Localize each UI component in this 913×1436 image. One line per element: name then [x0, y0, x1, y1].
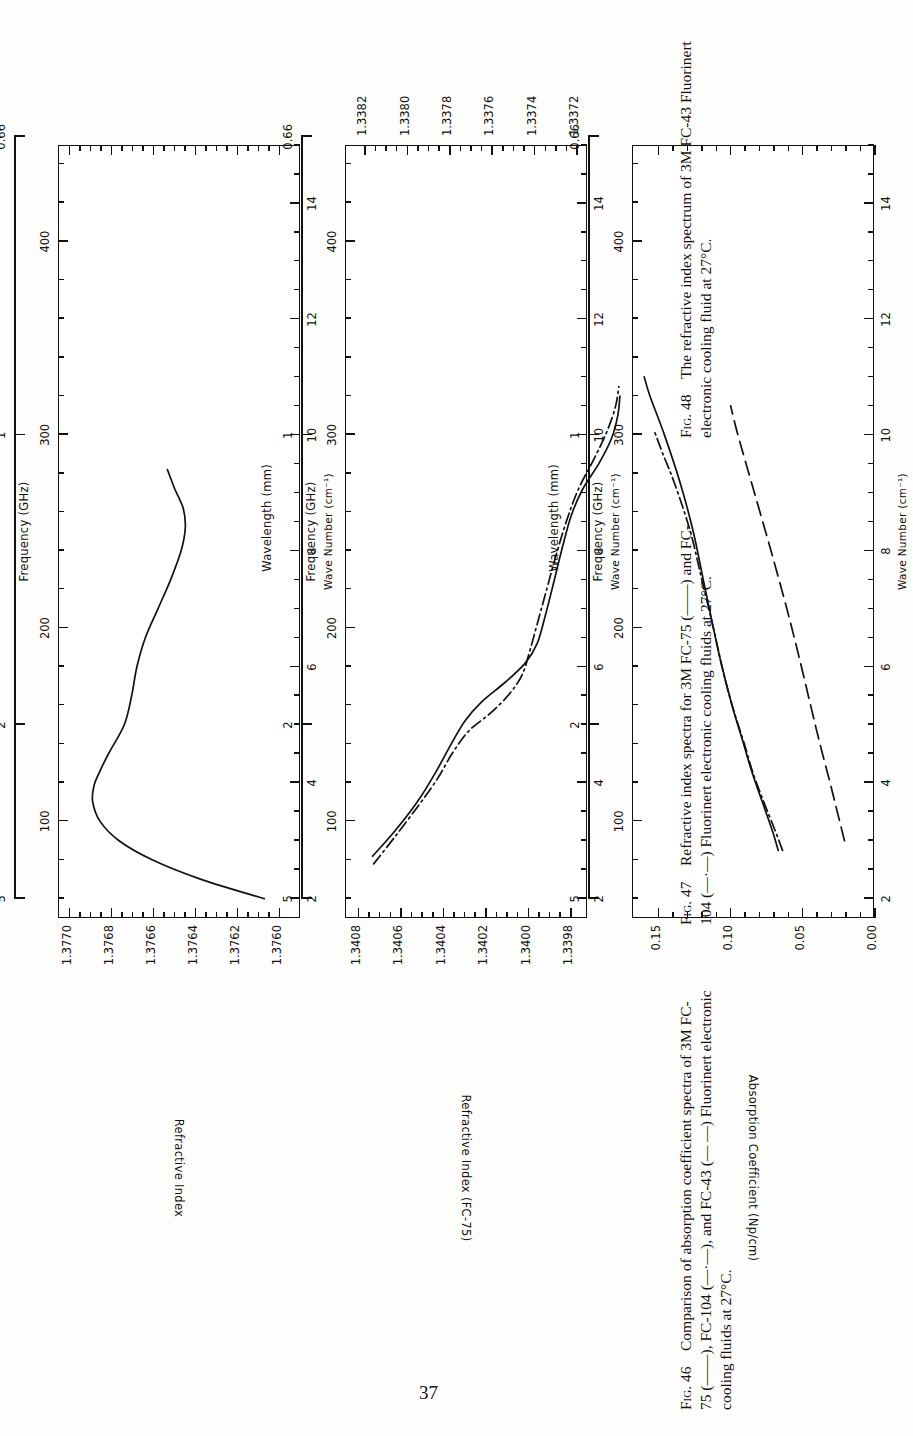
value-minor-tick — [174, 145, 176, 151]
value-minor-tick — [90, 912, 92, 918]
value-minor-tick — [184, 912, 186, 918]
frequency-tick-label: 100 — [38, 799, 52, 843]
caption-text: The refractive index spectrum of 3M FC-4… — [677, 41, 714, 438]
wavenumber-tick-label: 12 — [879, 303, 893, 335]
frequency-minor-tick — [58, 279, 64, 281]
frequency-minor-tick — [58, 897, 64, 899]
value-major-tick — [195, 908, 197, 918]
value-major-tick — [153, 145, 155, 155]
value-minor-tick — [672, 145, 674, 151]
value-minor-tick — [184, 145, 186, 151]
caption-text: Comparison of absorption coefficient spe… — [677, 990, 734, 1410]
value-minor-tick — [538, 912, 540, 918]
value-minor-tick — [205, 912, 207, 918]
frequency-axis-label: Frequency (GHz) — [304, 457, 318, 607]
wavelength-tick-label: 5 — [568, 883, 582, 915]
value-minor-tick — [549, 912, 551, 918]
value-minor-tick — [831, 145, 833, 151]
value-major-tick — [802, 908, 804, 918]
value-tick-label: 1.3760 — [270, 925, 284, 1015]
frequency-minor-tick — [632, 588, 638, 590]
value-minor-tick — [258, 912, 260, 918]
value-minor-tick — [845, 145, 847, 151]
value-tick-label: 0.05 — [793, 925, 807, 1015]
wavenumber-tick-label: 6 — [879, 651, 893, 683]
value-minor-tick — [368, 912, 370, 918]
wavelength-axis-endcap — [588, 897, 599, 899]
frequency-minor-tick — [632, 279, 638, 281]
fig46-plot: 5210.66Wavelength (mm)100200300400Freque… — [574, 30, 913, 1180]
frequency-major-tick — [632, 433, 642, 435]
frequency-tick-label: 100 — [325, 799, 339, 843]
value-minor-tick — [816, 145, 818, 151]
wavelength-axis-endcap — [14, 135, 25, 137]
frequency-minor-tick — [632, 549, 638, 551]
value-axis-label: Refractive Index — [172, 1018, 186, 1318]
value-minor-tick — [759, 912, 761, 918]
wavelength-tick-label: 0.66 — [0, 121, 8, 153]
wavenumber-major-tick — [864, 202, 874, 204]
wavenumber-tick-label: 4 — [879, 767, 893, 799]
wavenumber-minor-tick — [868, 608, 874, 610]
frequency-axis-label: Frequency (GHz) — [17, 457, 31, 607]
value-major-tick — [443, 908, 445, 918]
value-major-tick — [358, 908, 360, 918]
value-major-tick — [730, 145, 732, 155]
frequency-minor-tick — [632, 201, 638, 203]
frequency-major-tick — [58, 433, 68, 435]
value-minor-tick — [470, 145, 472, 151]
frequency-minor-tick — [632, 317, 638, 319]
frequency-major-tick — [632, 820, 642, 822]
frequency-tick-label: 400 — [325, 220, 339, 264]
frequency-minor-tick — [58, 356, 64, 358]
wavenumber-major-tick — [864, 897, 874, 899]
fig47-caption: Fig. 47 Refractive index spectra for 3M … — [676, 505, 716, 925]
frequency-minor-tick — [345, 897, 351, 899]
value-major-tick — [491, 145, 493, 155]
value-minor-tick — [205, 145, 207, 151]
value-tick-label: 1.3770 — [60, 925, 74, 1015]
frequency-minor-tick — [345, 472, 351, 474]
frequency-minor-tick — [632, 472, 638, 474]
wavenumber-minor-tick — [868, 289, 874, 291]
wavenumber-minor-tick — [868, 723, 874, 725]
frequency-minor-tick — [632, 859, 638, 861]
frequency-major-tick — [345, 433, 355, 435]
wavenumber-major-tick — [864, 666, 874, 668]
value-minor-tick — [845, 912, 847, 918]
value-minor-tick — [375, 145, 377, 151]
value-major-tick — [658, 908, 660, 918]
wavenumber-axis-label: Wave Number (cm⁻¹) — [896, 442, 908, 622]
frequency-major-tick — [345, 820, 355, 822]
wavenumber-tick-label: 8 — [879, 535, 893, 567]
value-minor-tick — [121, 912, 123, 918]
wavenumber-minor-tick — [868, 376, 874, 378]
value-minor-tick — [163, 912, 165, 918]
wavenumber-minor-tick — [868, 694, 874, 696]
value-major-tick — [111, 145, 113, 155]
value-minor-tick — [481, 145, 483, 151]
frequency-minor-tick — [345, 317, 351, 319]
frequency-minor-tick — [345, 665, 351, 667]
value-tick-label: 1.3404 — [434, 925, 448, 1015]
frequency-minor-tick — [632, 897, 638, 899]
frequency-axis-label: Frequency (GHz) — [591, 457, 605, 607]
frequency-minor-tick — [632, 356, 638, 358]
frequency-minor-tick — [58, 588, 64, 590]
frequency-tick-label: 400 — [38, 220, 52, 264]
value-tick-label: 0.00 — [865, 925, 879, 1015]
frequency-minor-tick — [58, 665, 64, 667]
fig46-caption: Fig. 46 Comparison of absorption coeffic… — [676, 990, 736, 1410]
frequency-minor-tick — [345, 201, 351, 203]
value-minor-tick — [411, 912, 413, 918]
wavelength-tick — [588, 434, 599, 436]
value-minor-tick — [559, 912, 561, 918]
value-major-tick — [364, 145, 366, 155]
frequency-minor-tick — [58, 704, 64, 706]
value-tick-label: 1.3764 — [186, 925, 200, 1015]
frequency-tick-label: 300 — [325, 413, 339, 457]
wavelength-tick-label: 0.66 — [281, 121, 295, 153]
value-minor-tick — [396, 145, 398, 151]
value-minor-tick — [428, 145, 430, 151]
caption-label: Fig. 46 — [677, 1351, 694, 1410]
